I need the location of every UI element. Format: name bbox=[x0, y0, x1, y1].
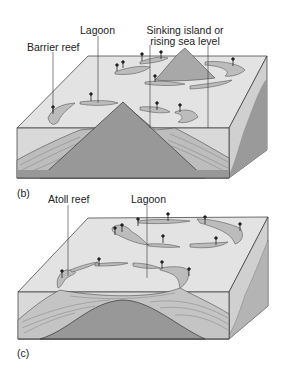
label-sinking-line2: rising sea level bbox=[140, 36, 230, 47]
panel-letter-b: (b) bbox=[17, 188, 30, 199]
block-diagram-c bbox=[18, 205, 268, 339]
label-lagoon-c: Lagoon bbox=[131, 194, 166, 205]
label-atoll-reef: Atoll reef bbox=[48, 194, 89, 205]
label-sinking-island: Sinking island or rising sea level bbox=[140, 25, 230, 47]
atoll-formation-diagram bbox=[0, 0, 284, 371]
label-lagoon-b: Lagoon bbox=[80, 25, 115, 36]
block-diagram-b bbox=[17, 36, 267, 178]
label-barrier-reef: Barrier reef bbox=[27, 42, 80, 53]
panel-letter-c: (c) bbox=[17, 348, 29, 359]
